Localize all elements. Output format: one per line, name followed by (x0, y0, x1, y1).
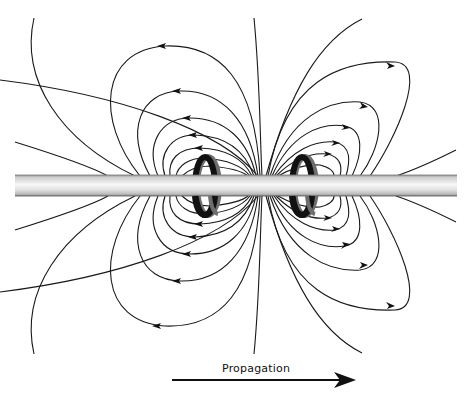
propagation-label: Propagation (222, 362, 290, 375)
field-lines-upper (0, 18, 456, 176)
rod (15, 175, 457, 196)
field-lines-lower (0, 196, 456, 354)
field-diagram (0, 0, 470, 403)
